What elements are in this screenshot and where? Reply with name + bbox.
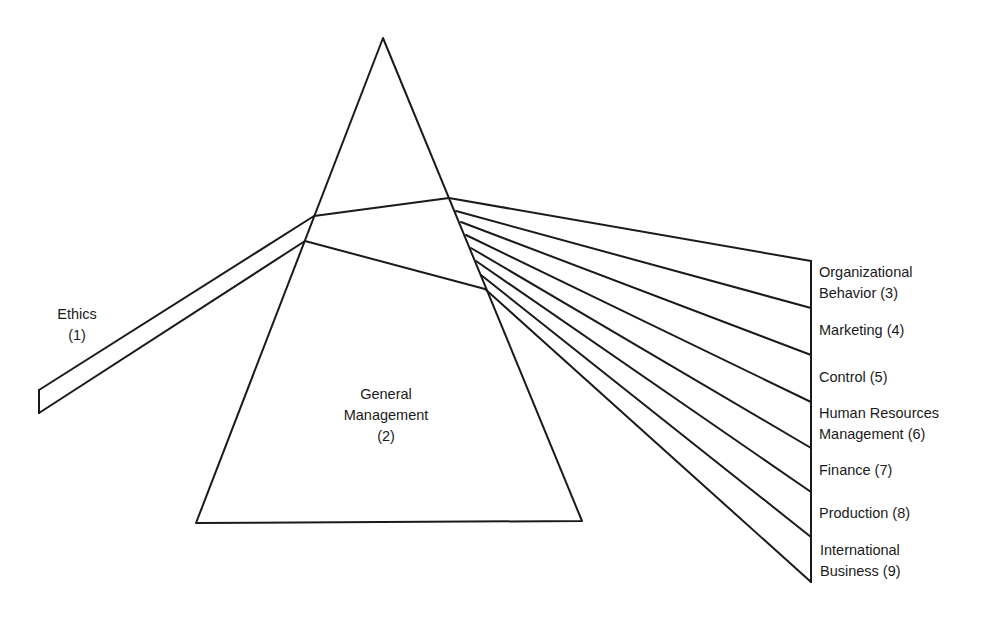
output-label-line: Behavior (3): [819, 283, 913, 304]
output-label-line: International: [820, 540, 901, 561]
ray-5: [471, 248, 811, 448]
output-label-line: Control (5): [819, 367, 888, 388]
ray-8: [485, 289, 811, 582]
ray-1: [449, 198, 811, 261]
output-label-line: Human Resources: [819, 403, 939, 424]
output-label-line: Production (8): [819, 503, 910, 524]
output-label-line: Organizational: [819, 262, 913, 283]
output-label-line: Finance (7): [819, 460, 892, 481]
ray-6: [476, 261, 811, 492]
output-label-international-business: International Business (9): [820, 540, 901, 582]
ray-3: [461, 222, 811, 355]
diagram-canvas: [0, 0, 995, 621]
prism-triangle: [196, 38, 582, 523]
refraction-lower-edge: [305, 241, 485, 289]
ethics-beam-upper-edge: [39, 216, 314, 390]
ray-2: [456, 211, 811, 308]
general-management-number: (2): [326, 426, 446, 447]
output-label-line: Business (9): [820, 561, 901, 582]
dispersed-rays: [449, 198, 811, 582]
output-label-line: Management (6): [819, 424, 939, 445]
general-management-label: General Management (2): [326, 384, 446, 447]
ray-7: [481, 275, 811, 537]
prism-diagram: Ethics (1) General Management (2) Organi…: [0, 0, 995, 621]
general-management-line1: General: [326, 384, 446, 405]
ethics-label: Ethics (1): [46, 304, 108, 346]
output-label-production: Production (8): [819, 503, 910, 524]
ethics-label-text: Ethics: [46, 304, 108, 325]
refraction-upper-edge: [314, 198, 449, 216]
output-label-organizational-behavior: Organizational Behavior (3): [819, 262, 913, 304]
output-label-line: Marketing (4): [819, 320, 904, 341]
ethics-label-number: (1): [46, 325, 108, 346]
output-label-human-resources-management: Human Resources Management (6): [819, 403, 939, 445]
output-label-control: Control (5): [819, 367, 888, 388]
output-label-finance: Finance (7): [819, 460, 892, 481]
output-label-marketing: Marketing (4): [819, 320, 904, 341]
general-management-line2: Management: [326, 405, 446, 426]
